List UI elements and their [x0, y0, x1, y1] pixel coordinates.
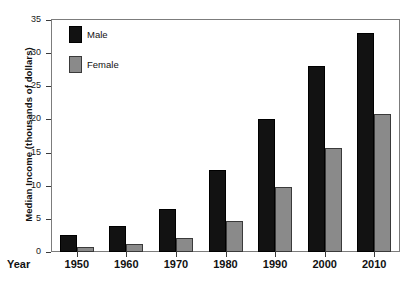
y-tick-label: 10: [31, 180, 41, 190]
y-tick-label: 35: [31, 14, 41, 24]
legend-swatch-male-icon: [69, 26, 82, 43]
legend-swatch-female-icon: [69, 56, 82, 73]
bar-male-1960: [109, 226, 126, 253]
bar-chart: Median Income (thousands of dollars) 051…: [0, 0, 420, 283]
legend-label-female: Female: [87, 59, 119, 70]
bar-male-2000: [308, 66, 325, 252]
bar-female-1960: [126, 244, 143, 252]
y-tick-label: 20: [31, 113, 41, 123]
bar-male-1980: [209, 170, 226, 252]
bar-male-1950: [60, 235, 77, 252]
bar-male-1970: [159, 209, 176, 252]
y-tick-label: 25: [31, 80, 41, 90]
x-tick-mark-1980: [226, 252, 227, 257]
x-tick-mark-2010: [374, 252, 375, 257]
x-tick-mark-1990: [275, 252, 276, 257]
x-tick-mark-1960: [126, 252, 127, 257]
legend-item-male: Male: [69, 24, 119, 45]
legend-label-male: Male: [87, 29, 108, 40]
x-tick-label-1980: 1980: [201, 258, 251, 270]
x-tick-label-1950: 1950: [52, 258, 102, 270]
x-tick-label-1990: 1990: [250, 258, 300, 270]
bar-male-2010: [357, 33, 374, 252]
legend-item-female: Female: [69, 54, 119, 75]
bar-female-1950: [77, 247, 94, 252]
y-tick-label: 5: [36, 213, 41, 223]
bar-male-1990: [258, 119, 275, 252]
y-tick-mark: [46, 53, 51, 54]
x-tick-mark-2000: [325, 252, 326, 257]
x-tick-label-2000: 2000: [300, 258, 350, 270]
bar-female-1990: [275, 187, 292, 252]
y-tick-mark: [46, 119, 51, 120]
x-tick-label-1970: 1970: [151, 258, 201, 270]
y-tick-mark: [46, 219, 51, 220]
y-tick-label: 0: [36, 246, 41, 256]
y-tick-mark: [46, 186, 51, 187]
x-tick-label-2010: 2010: [349, 258, 399, 270]
y-tick-label: 30: [31, 47, 41, 57]
y-tick-mark: [46, 20, 51, 21]
bar-female-2000: [325, 148, 342, 252]
x-axis-title: Year: [7, 258, 30, 270]
y-tick-mark: [46, 86, 51, 87]
y-tick-label: 15: [31, 147, 41, 157]
x-tick-mark-1970: [176, 252, 177, 257]
y-tick-mark: [46, 252, 51, 253]
y-tick-mark: [46, 153, 51, 154]
chart-legend: Male Female: [69, 24, 119, 84]
bar-female-1970: [176, 238, 193, 252]
x-tick-label-1960: 1960: [101, 258, 151, 270]
x-tick-mark-1950: [77, 252, 78, 257]
bar-female-1980: [226, 221, 243, 252]
bar-female-2010: [374, 114, 391, 252]
